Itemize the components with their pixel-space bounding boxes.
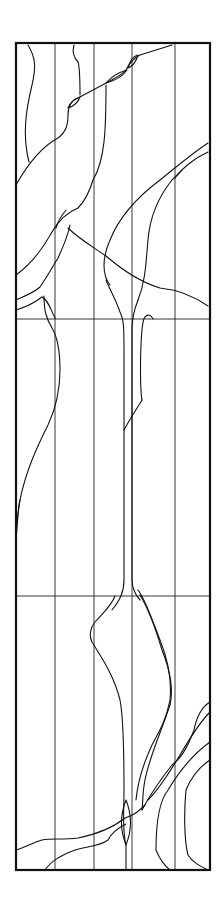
vertical-grid-lines xyxy=(55,43,175,870)
stained-glass-design xyxy=(0,0,224,910)
curved-lead-lines xyxy=(16,45,210,870)
outer-frame xyxy=(16,43,210,870)
horizontal-dividers xyxy=(16,319,210,596)
